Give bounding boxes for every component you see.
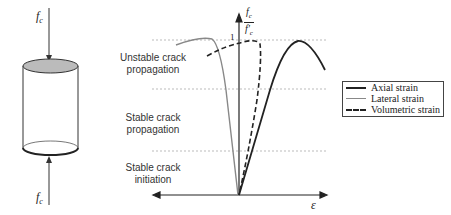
zone-label-stable-initiation: Stable crackinitiation xyxy=(103,162,203,186)
top-load-label: fc xyxy=(36,9,43,25)
y-axis-label: fc f'c xyxy=(244,6,254,39)
tick-1-label: 1 xyxy=(230,32,235,42)
x-axis-label: ε xyxy=(311,198,316,213)
zone-label-unstable: Unstable crackpropagation xyxy=(103,52,203,76)
legend-item-volumetric: Volumetric strain xyxy=(343,104,443,115)
cylinder-specimen xyxy=(23,8,78,205)
legend: Axial strain Lateral strain Volumetric s… xyxy=(342,81,444,117)
legend-item-axial: Axial strain xyxy=(343,82,443,93)
legend-item-lateral: Lateral strain xyxy=(343,93,443,104)
bottom-load-label: fc xyxy=(36,190,43,206)
volumetric-strain-curve xyxy=(207,41,261,195)
zone-label-stable-propagation: Stable crackpropagation xyxy=(103,112,203,136)
axial-strain-curve xyxy=(239,41,325,195)
